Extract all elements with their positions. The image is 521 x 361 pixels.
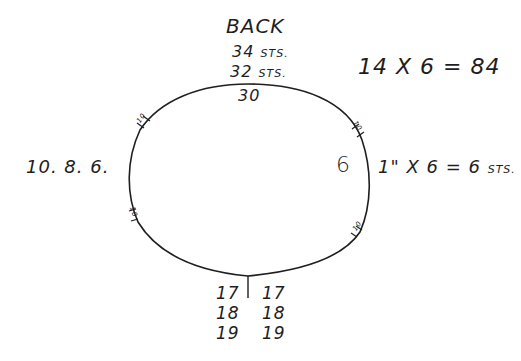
bottom-left-count: 18	[216, 303, 240, 323]
left-decrease-label: 10. 8. 6.	[26, 156, 109, 177]
count-value: 34	[232, 42, 254, 61]
top-count-34: 34 STS.	[232, 42, 289, 61]
neckline-diagram: 10 10 10 10 BACK 34 STS. 32 STS. 30 14 X…	[0, 0, 521, 361]
top-count-32: 32 STS.	[230, 62, 287, 81]
bottom-right-count: 17	[262, 283, 286, 303]
inside-top-count: 30	[238, 86, 260, 105]
bottom-left-counts: 17 18 19	[216, 283, 240, 343]
count-unit: STS.	[260, 47, 288, 60]
bottom-right-counts: 17 18 19	[262, 283, 286, 343]
neckline-oval	[129, 84, 369, 276]
bottom-right-count: 18	[262, 303, 286, 323]
bottom-left-count: 17	[216, 283, 240, 303]
bottom-right-count: 19	[262, 323, 286, 343]
bottom-left-count: 19	[216, 323, 240, 343]
formula-text: 1" X 6 = 6	[378, 156, 481, 177]
right-inside-count: 6	[336, 152, 351, 177]
count-value: 32	[230, 62, 252, 81]
count-unit: STS.	[258, 67, 286, 80]
formula-14x6: 14 X 6 = 84	[358, 54, 500, 79]
formula-1inch-x6: 1" X 6 = 6 STS.	[378, 156, 516, 177]
formula-unit: STS.	[488, 163, 516, 176]
diagram-title: BACK	[226, 14, 284, 38]
